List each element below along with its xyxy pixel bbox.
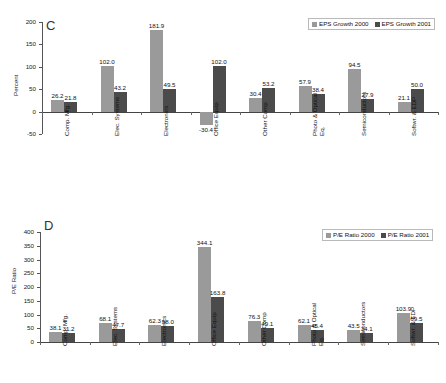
x-tick-mark	[141, 112, 142, 115]
legend-label-0: EPS Growth 2000	[319, 20, 369, 28]
x-axis-category-label: Office Equip	[212, 102, 219, 136]
y-tick-label: 100	[6, 311, 34, 318]
x-tick-mark	[438, 112, 439, 115]
legend-swatch-icon-1	[381, 233, 386, 238]
x-axis-category-label: Softwr. & EDP	[410, 97, 417, 136]
y-tick-mark	[37, 301, 40, 302]
y-tick-label: 150	[8, 40, 36, 47]
x-tick-mark	[139, 342, 140, 345]
x-axis-category-label: Office Equip	[210, 312, 217, 346]
x-tick-mark	[189, 342, 190, 345]
legend-d: P/E Ratio 2000 P/E Ratio 2001	[322, 229, 433, 241]
panel-letter-d: D	[44, 218, 54, 233]
bar-value-label: 94.5	[341, 61, 368, 68]
x-tick-mark	[42, 112, 43, 115]
x-tick-mark	[339, 112, 340, 115]
y-tick-mark	[39, 22, 42, 23]
bar-value-label: 49.1	[254, 320, 281, 327]
bar-value-label: 31.2	[55, 325, 82, 332]
figure-root: C Percent EPS Growth 2000 EPS Growth 200…	[0, 0, 446, 383]
y-axis-line	[42, 22, 43, 134]
chart-panel-d: D P/E Ratio P/E Ratio 2000 P/E Ratio 200…	[0, 196, 446, 383]
y-tick-label: 100	[8, 63, 36, 70]
x-axis-category-label: Electronics	[162, 106, 169, 136]
panel-letter-c: C	[46, 18, 56, 33]
bar-value-label: 69.5	[403, 315, 430, 322]
legend-label-1: EPS Growth 2001	[382, 20, 432, 28]
x-axis-category-label: Elec. Systems	[113, 97, 120, 136]
y-axis-line	[40, 232, 41, 342]
x-axis-category-label: Photo & Optical Eq.	[310, 298, 324, 346]
y-tick-mark	[39, 89, 42, 90]
x-tick-mark	[90, 342, 91, 345]
x-tick-mark	[92, 112, 93, 115]
x-axis-category-label: Elec. Systems	[111, 307, 118, 346]
x-axis-category-label: Comp. Mfg.	[63, 104, 70, 136]
y-tick-label: 300	[6, 256, 34, 263]
bar-value-label: 53.2	[255, 80, 282, 87]
bar-value-label: 57.9	[292, 78, 319, 85]
legend-label-1: P/E Ratio 2001	[388, 231, 430, 239]
y-tick-mark	[39, 67, 42, 68]
x-tick-mark	[239, 342, 240, 345]
y-tick-mark	[37, 246, 40, 247]
bar-value-label: 49.5	[156, 81, 183, 88]
bar-value-label: 47.7	[105, 321, 132, 328]
legend-c: EPS Growth 2000 EPS Growth 2001	[308, 18, 435, 30]
legend-item-eps-2000: EPS Growth 2000	[312, 20, 369, 28]
bar-value-label: 163.8	[204, 289, 231, 296]
bar-value-label: 102.0	[206, 58, 233, 65]
y-tick-mark	[39, 134, 42, 135]
x-axis-category-label: Semiconductors	[359, 302, 366, 346]
x-axis-category-label: Other Comp	[260, 312, 267, 346]
x-tick-mark	[388, 342, 389, 345]
x-tick-mark	[289, 342, 290, 345]
x-axis-category-label: Comp. Mfg.	[61, 314, 68, 346]
chart-panel-c: C Percent EPS Growth 2000 EPS Growth 200…	[0, 0, 446, 196]
x-tick-mark	[438, 342, 439, 345]
x-tick-mark	[40, 342, 41, 345]
y-tick-mark	[37, 273, 40, 274]
y-tick-mark	[37, 328, 40, 329]
bar	[200, 112, 213, 126]
x-tick-mark	[191, 112, 192, 115]
y-tick-label: 50	[8, 85, 36, 92]
x-axis-category-label: Electronics	[160, 316, 167, 346]
x-axis-category-label: Softwr. & EDP	[409, 307, 416, 346]
y-tick-mark	[37, 260, 40, 261]
y-tick-label: 350	[6, 242, 34, 249]
legend-item-pe-2000: P/E Ratio 2000	[326, 231, 375, 239]
bar-value-label: 27.9	[354, 91, 381, 98]
legend-label-0: P/E Ratio 2000	[333, 231, 375, 239]
bar	[398, 102, 411, 111]
y-tick-label: 400	[6, 228, 34, 235]
x-tick-mark	[290, 112, 291, 115]
y-tick-label: 200	[8, 18, 36, 25]
y-tick-label: 150	[6, 297, 34, 304]
legend-swatch-icon-1	[375, 22, 380, 27]
x-tick-mark	[240, 112, 241, 115]
bar	[150, 30, 163, 111]
y-tick-label: 200	[6, 283, 34, 290]
y-tick-mark	[39, 44, 42, 45]
y-tick-mark	[37, 315, 40, 316]
x-tick-mark	[389, 112, 390, 115]
bar-value-label: 344.1	[191, 239, 218, 246]
bar-value-label: 43.2	[107, 84, 134, 91]
y-tick-label: 50	[6, 324, 34, 331]
bar-value-label: 58.0	[154, 318, 181, 325]
x-axis-category-label: Other Comp	[261, 102, 268, 136]
y-tick-label: -50	[8, 130, 36, 137]
bar-value-label: 102.0	[94, 58, 121, 65]
bar-value-label: 34.1	[353, 325, 380, 332]
y-tick-label: 0	[6, 338, 34, 345]
legend-swatch-icon-0	[326, 233, 331, 238]
legend-item-eps-2001: EPS Growth 2001	[375, 20, 432, 28]
bar-value-label: 21.8	[57, 94, 84, 101]
x-axis-category-label: Semiconductors	[360, 92, 367, 136]
y-tick-mark	[37, 232, 40, 233]
y-tick-label: 0	[8, 108, 36, 115]
y-tick-label: 250	[6, 269, 34, 276]
y-tick-mark	[37, 287, 40, 288]
legend-swatch-icon-0	[312, 22, 317, 27]
